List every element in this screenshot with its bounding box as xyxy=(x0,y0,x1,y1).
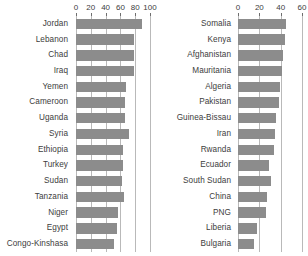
bar xyxy=(238,82,280,92)
x-axis-right: 0204060 xyxy=(238,0,302,16)
bar xyxy=(238,34,285,44)
bar xyxy=(76,97,125,107)
gridline xyxy=(150,16,151,252)
category-label: Cameroon xyxy=(0,95,72,111)
category-label: Jordan xyxy=(0,16,72,32)
category-labels-right: SomaliaKenyaAfghanistanMauritaniaAlgeria… xyxy=(159,16,235,252)
bar-row xyxy=(76,63,150,79)
axis-tick-label: 0 xyxy=(236,4,240,12)
bar xyxy=(238,192,267,202)
bar-row xyxy=(238,142,302,158)
bar xyxy=(238,239,254,249)
bar xyxy=(76,239,114,249)
bar xyxy=(76,34,134,44)
category-label: Uganda xyxy=(0,110,72,126)
category-label: South Sudan xyxy=(159,173,235,189)
category-label: Pakistan xyxy=(159,95,235,111)
plot-area-right xyxy=(238,16,302,252)
category-label: Iran xyxy=(159,126,235,142)
bar xyxy=(76,207,118,217)
bar-row xyxy=(238,79,302,95)
category-label: Kenya xyxy=(159,32,235,48)
x-axis-left: 020406080100 xyxy=(76,0,150,16)
category-label: China xyxy=(159,189,235,205)
bar-row xyxy=(76,142,150,158)
bar xyxy=(238,97,279,107)
bar xyxy=(76,192,124,202)
bars-right xyxy=(238,16,302,252)
bar-row xyxy=(76,126,150,142)
bar xyxy=(238,145,274,155)
bar xyxy=(238,66,282,76)
category-label: Lebanon xyxy=(0,32,72,48)
bar-row xyxy=(238,173,302,189)
bar-row xyxy=(238,110,302,126)
category-labels-left: JordanLebanonChadIraqYemenCameroonUganda… xyxy=(0,16,72,252)
axis-tick-label: 20 xyxy=(86,4,95,12)
bar-row xyxy=(76,236,150,252)
category-label: Tanzania xyxy=(0,189,72,205)
category-label: Guinea-Bissau xyxy=(159,110,235,126)
bar xyxy=(76,223,117,233)
bar-row xyxy=(76,205,150,221)
bar-row xyxy=(76,32,150,48)
bar xyxy=(238,113,276,123)
category-label: Liberia xyxy=(159,221,235,237)
category-label: Afghanistan xyxy=(159,47,235,63)
bar xyxy=(238,19,286,29)
category-label: PNG xyxy=(159,205,235,221)
category-label: Turkey xyxy=(0,158,72,174)
bar xyxy=(76,82,126,92)
axis-tick-label: 0 xyxy=(74,4,78,12)
bar-row xyxy=(238,221,302,237)
bar-row xyxy=(238,236,302,252)
bar-row xyxy=(238,205,302,221)
bar-row xyxy=(238,47,302,63)
category-label: Congo-Kinshasa xyxy=(0,236,72,252)
bar-row xyxy=(76,221,150,237)
category-label: Sudan xyxy=(0,173,72,189)
category-label: Bulgaria xyxy=(159,236,235,252)
axis-tick-label: 60 xyxy=(298,4,307,12)
category-label: Mauritania xyxy=(159,63,235,79)
bar-row xyxy=(76,158,150,174)
bar xyxy=(76,66,134,76)
bar-row xyxy=(76,79,150,95)
bar xyxy=(238,176,271,186)
category-label: Ethiopia xyxy=(0,142,72,158)
axis-tick-label: 80 xyxy=(131,4,140,12)
chart-panel-right: 0204060 SomaliaKenyaAfghanistanMauritani… xyxy=(154,0,308,256)
category-label: Algeria xyxy=(159,79,235,95)
bar-row xyxy=(76,173,150,189)
plot-area-left xyxy=(76,16,150,252)
axis-tick-label: 40 xyxy=(101,4,110,12)
axis-tick-label: 20 xyxy=(255,4,264,12)
bar-row xyxy=(238,63,302,79)
bar xyxy=(76,113,125,123)
bar xyxy=(238,129,275,139)
bar-row xyxy=(76,47,150,63)
category-label: Iraq xyxy=(0,63,72,79)
bar-row xyxy=(238,16,302,32)
category-label: Niger xyxy=(0,205,72,221)
bar xyxy=(238,160,269,170)
bar xyxy=(76,129,129,139)
bars-left xyxy=(76,16,150,252)
category-label: Yemen xyxy=(0,79,72,95)
bar-row xyxy=(238,189,302,205)
bar xyxy=(76,19,142,29)
bar xyxy=(76,160,123,170)
bar-row xyxy=(76,95,150,111)
bar xyxy=(238,223,257,233)
bar xyxy=(238,50,283,60)
bar xyxy=(238,207,266,217)
bar xyxy=(76,145,123,155)
bar xyxy=(76,176,122,186)
bar-row xyxy=(76,189,150,205)
category-label: Egypt xyxy=(0,221,72,237)
bar-row xyxy=(238,32,302,48)
bar-row xyxy=(238,95,302,111)
category-label: Rwanda xyxy=(159,142,235,158)
axis-tick-label: 60 xyxy=(116,4,125,12)
axis-tick-label: 40 xyxy=(276,4,285,12)
